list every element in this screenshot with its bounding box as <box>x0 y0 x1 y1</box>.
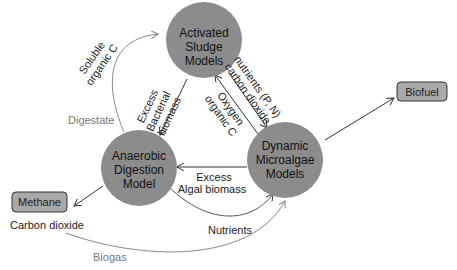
methane-box: Methane <box>12 192 67 212</box>
biofuel-label: Biofuel <box>405 86 439 98</box>
methane-arrow <box>74 186 103 206</box>
biofuel-box: Biofuel <box>397 82 447 101</box>
nutrients-label: Nutrients <box>208 224 253 236</box>
soluble-organic-c-label: Soluble organic C <box>73 35 120 87</box>
activated-sludge-line-3: Models <box>185 54 224 68</box>
anaerobic-digestion-line-2: Digestion <box>114 163 164 177</box>
microalgae-line-1: Dynamic <box>262 139 309 153</box>
activated-sludge-line-1: Activated <box>179 26 228 40</box>
biofuel-arrow <box>325 98 394 140</box>
carbon-dioxide-label: Carbon dioxide <box>10 219 84 231</box>
anaerobic-digestion-line-1: Anaerobic <box>112 149 166 163</box>
methane-label: Methane <box>18 196 61 208</box>
microalgae-line-2: Microalgae <box>256 153 315 167</box>
excess-algal-line-1: Excess <box>196 171 232 183</box>
activated-sludge-line-2: Sludge <box>185 40 223 54</box>
diagram-canvas: Activated Sludge Models Anaerobic Digest… <box>0 0 457 270</box>
excess-algal-line-2: Algal biomass <box>178 183 247 195</box>
biogas-label: Biogas <box>93 251 127 263</box>
microalgae-line-3: Models <box>266 167 305 181</box>
digestate-label: Digestate <box>68 114 114 126</box>
anaerobic-digestion-line-3: Model <box>123 177 156 191</box>
microalgae-node: Dynamic Microalgae Models <box>247 122 323 198</box>
biogas-arrow <box>66 201 285 252</box>
anaerobic-digestion-node: Anaerobic Digestion Model <box>101 130 177 206</box>
